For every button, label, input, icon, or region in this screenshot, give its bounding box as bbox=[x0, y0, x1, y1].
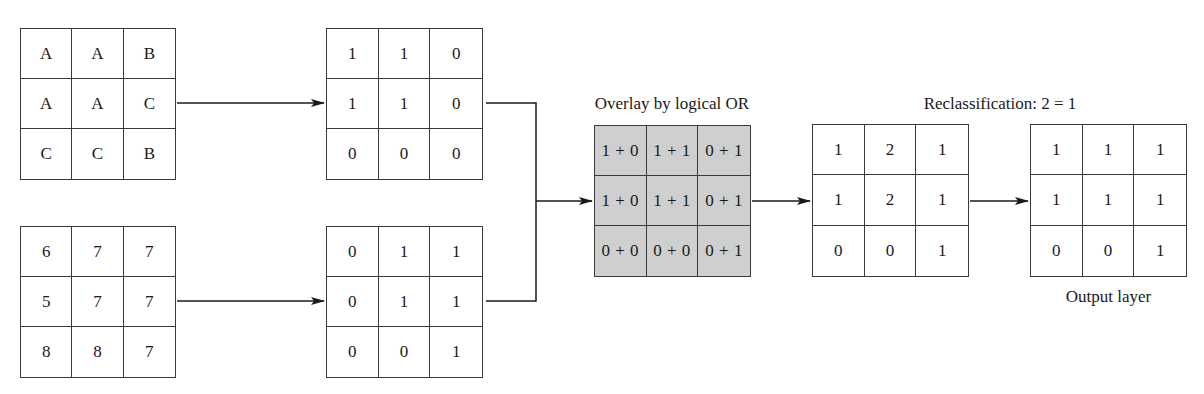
grid-cell: 2 bbox=[865, 175, 917, 225]
reclass-grid: 121121001 bbox=[812, 124, 969, 277]
grid-cell: 0 bbox=[327, 129, 379, 179]
grid-cell: 0 bbox=[379, 327, 431, 377]
grid-cell: C bbox=[124, 79, 175, 129]
grid-cell: 1 bbox=[1031, 125, 1083, 175]
grid-cell: 1 bbox=[916, 125, 968, 175]
grid-cell: 1 bbox=[379, 29, 431, 79]
grid-cell: 0 bbox=[1031, 226, 1083, 276]
grid-cell: 7 bbox=[124, 277, 175, 327]
grid-cell: 1 bbox=[1031, 175, 1083, 225]
grid-cell: 7 bbox=[124, 327, 175, 377]
grid-cell: A bbox=[72, 79, 123, 129]
grid-cell: 8 bbox=[21, 327, 72, 377]
grid-cell: 0 + 1 bbox=[698, 126, 750, 176]
grid-cell: 0 + 0 bbox=[595, 226, 647, 276]
output-title: Output layer bbox=[1030, 287, 1187, 307]
grid-cell: 0 bbox=[430, 79, 482, 129]
grid-cell: 1 bbox=[1134, 175, 1186, 225]
binary-bottom-grid: 011011001 bbox=[326, 226, 483, 378]
grid-cell: 0 bbox=[1083, 226, 1135, 276]
grid-cell: 1 bbox=[430, 277, 482, 327]
grid-cell: 7 bbox=[72, 277, 123, 327]
grid-cell: 1 bbox=[916, 175, 968, 225]
grid-cell: 0 + 1 bbox=[698, 226, 750, 276]
input-numbers-grid: 677577887 bbox=[20, 226, 176, 378]
grid-cell: 1 + 0 bbox=[595, 126, 647, 176]
grid-cell: B bbox=[124, 29, 175, 79]
grid-cell: 1 bbox=[1083, 125, 1135, 175]
grid-cell: 0 + 1 bbox=[698, 176, 750, 226]
grid-cell: 1 bbox=[430, 227, 482, 277]
grid-cell: 1 bbox=[430, 327, 482, 377]
grid-cell: 1 bbox=[327, 29, 379, 79]
grid-cell: 0 bbox=[813, 226, 865, 276]
grid-cell: C bbox=[72, 129, 123, 179]
grid-cell: C bbox=[21, 129, 72, 179]
grid-cell: 0 bbox=[865, 226, 917, 276]
grid-cell: 0 + 0 bbox=[647, 226, 699, 276]
grid-cell: 7 bbox=[124, 227, 175, 277]
overlay-title: Overlay by logical OR bbox=[572, 94, 772, 114]
grid-cell: 0 bbox=[379, 129, 431, 179]
grid-cell: 8 bbox=[72, 327, 123, 377]
input-letters-grid: AABAACCCB bbox=[20, 28, 176, 180]
grid-cell: 1 bbox=[379, 79, 431, 129]
bracket-combine bbox=[486, 103, 536, 301]
grid-cell: 1 bbox=[1134, 125, 1186, 175]
grid-cell: 0 bbox=[327, 227, 379, 277]
overlay-grid: 1 + 01 + 10 + 11 + 01 + 10 + 10 + 00 + 0… bbox=[594, 125, 751, 277]
binary-top-grid: 110110000 bbox=[326, 28, 483, 180]
grid-cell: 6 bbox=[21, 227, 72, 277]
grid-cell: 1 bbox=[379, 227, 431, 277]
grid-cell: 2 bbox=[865, 125, 917, 175]
reclass-title: Reclassification: 2 = 1 bbox=[880, 94, 1120, 114]
grid-cell: A bbox=[21, 29, 72, 79]
grid-cell: A bbox=[72, 29, 123, 79]
grid-cell: 1 bbox=[813, 175, 865, 225]
grid-cell: 0 bbox=[327, 277, 379, 327]
grid-cell: 1 bbox=[916, 226, 968, 276]
grid-cell: 1 + 0 bbox=[595, 176, 647, 226]
grid-cell: 0 bbox=[430, 129, 482, 179]
grid-cell: 1 bbox=[327, 79, 379, 129]
grid-cell: 1 bbox=[1083, 175, 1135, 225]
grid-cell: 1 + 1 bbox=[647, 126, 699, 176]
grid-cell: A bbox=[21, 79, 72, 129]
grid-cell: 0 bbox=[430, 29, 482, 79]
grid-cell: 1 bbox=[379, 277, 431, 327]
grid-cell: 1 + 1 bbox=[647, 176, 699, 226]
grid-cell: 1 bbox=[1134, 226, 1186, 276]
grid-cell: 5 bbox=[21, 277, 72, 327]
grid-cell: 7 bbox=[72, 227, 123, 277]
grid-cell: 1 bbox=[813, 125, 865, 175]
grid-cell: B bbox=[124, 129, 175, 179]
grid-cell: 0 bbox=[327, 327, 379, 377]
output-grid: 111111001 bbox=[1030, 124, 1187, 277]
